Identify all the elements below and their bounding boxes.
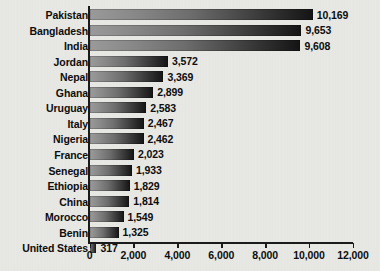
category-label: Jordan xyxy=(0,56,88,68)
chart-row: Uruguay2,583 xyxy=(0,102,380,118)
bar xyxy=(90,87,154,98)
chart-row: Bangladesh9,653 xyxy=(0,25,380,41)
x-axis-tick-label: 10,000 xyxy=(293,249,325,261)
x-axis-tick xyxy=(133,243,134,248)
bar xyxy=(90,180,130,191)
category-label: China xyxy=(0,196,88,208)
bar-value-label: 9,608 xyxy=(304,40,330,52)
bar xyxy=(90,9,313,20)
x-axis-tick xyxy=(265,243,266,248)
bar-value-label: 1,829 xyxy=(134,180,160,192)
bar-value-label: 2,583 xyxy=(150,102,176,114)
bar xyxy=(90,71,164,82)
bar xyxy=(90,56,168,67)
bar-value-label: 10,169 xyxy=(317,9,349,21)
bar-chart: Pakistan10,169Bangladesh9,653India9,608J… xyxy=(0,0,380,271)
bar xyxy=(90,165,132,176)
plot-area: Pakistan10,169Bangladesh9,653India9,608J… xyxy=(0,0,380,271)
bar-value-label: 1,814 xyxy=(133,195,159,207)
category-label: Nepal xyxy=(0,71,88,83)
chart-row: Morocco1,549 xyxy=(0,211,380,227)
category-label: Benin xyxy=(0,227,88,239)
category-label: Nigeria xyxy=(0,133,88,145)
chart-row: Nigeria2,462 xyxy=(0,133,380,149)
chart-row: France2,023 xyxy=(0,149,380,165)
chart-row: India9,608 xyxy=(0,40,380,56)
bar-value-label: 1,933 xyxy=(136,164,162,176)
x-axis-tick-label: 8,000 xyxy=(252,249,278,261)
x-axis-tick xyxy=(177,243,178,248)
category-label: India xyxy=(0,40,88,52)
category-label: Ghana xyxy=(0,87,88,99)
bar-value-label: 1,325 xyxy=(123,226,149,238)
x-axis-tick-label: 2,000 xyxy=(121,249,147,261)
bar xyxy=(90,102,147,113)
category-label: Pakistan xyxy=(0,9,88,21)
category-label: Ethiopia xyxy=(0,180,88,192)
chart-row: Pakistan10,169 xyxy=(0,9,380,25)
chart-row: China1,814 xyxy=(0,196,380,212)
bar xyxy=(90,149,134,160)
bar-value-label: 2,462 xyxy=(148,133,174,145)
category-label: Senegal xyxy=(0,165,88,177)
x-axis-tick xyxy=(353,243,354,248)
bar xyxy=(90,196,130,207)
bar xyxy=(90,40,301,51)
chart-row: Benin1,325 xyxy=(0,227,380,243)
chart-row: Ethiopia1,829 xyxy=(0,180,380,196)
bar-value-label: 9,653 xyxy=(305,24,331,36)
bar-value-label: 2,023 xyxy=(138,148,164,160)
x-axis-tick xyxy=(90,243,91,248)
chart-row: Jordan3,572 xyxy=(0,56,380,72)
bar-value-label: 2,899 xyxy=(157,86,183,98)
bar xyxy=(90,211,124,222)
bar-value-label: 3,369 xyxy=(167,71,193,83)
bar-value-label: 2,467 xyxy=(148,117,174,129)
chart-row: Nepal3,369 xyxy=(0,71,380,87)
x-axis-tick-label: 12,000 xyxy=(337,249,369,261)
category-label: United States xyxy=(0,242,88,254)
bar xyxy=(90,118,144,129)
x-axis-tick-label: 6,000 xyxy=(208,249,234,261)
bar xyxy=(90,133,144,144)
x-axis-tick-label: 0 xyxy=(87,249,93,261)
bar-value-label: 3,572 xyxy=(172,55,198,67)
category-label: Bangladesh xyxy=(0,25,88,37)
chart-row: Italy2,467 xyxy=(0,118,380,134)
category-label: France xyxy=(0,149,88,161)
y-axis-line xyxy=(88,6,90,243)
chart-row: Ghana2,899 xyxy=(0,87,380,103)
bar xyxy=(90,25,302,36)
category-label: Morocco xyxy=(0,211,88,223)
x-axis-tick xyxy=(309,243,310,248)
category-label: Uruguay xyxy=(0,102,88,114)
x-axis-tick xyxy=(221,243,222,248)
chart-row: Senegal1,933 xyxy=(0,165,380,181)
bar-value-label: 1,549 xyxy=(128,211,154,223)
bar xyxy=(90,227,119,238)
x-axis-tick-label: 4,000 xyxy=(164,249,190,261)
category-label: Italy xyxy=(0,118,88,130)
